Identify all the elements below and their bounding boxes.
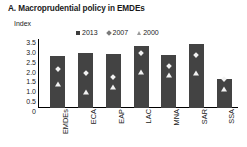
chart-legend: 201320072000: [76, 29, 159, 36]
x-label-ECA: ECA: [89, 109, 98, 124]
bar-SSA: [217, 79, 232, 108]
x-label-SSA: SSA: [227, 109, 236, 124]
chart-figure: A. Macroprudential policy in EMDEs Index…: [0, 0, 247, 147]
legend-item-2000: 2000: [137, 29, 159, 36]
x-label-SAR: SAR: [200, 109, 209, 124]
legend-label: 2013: [82, 29, 98, 36]
y-tick-label: 3.0: [26, 49, 36, 56]
x-axis-labels: EMDEsECAEAPLACMNASARSSA: [38, 109, 238, 147]
y-tick-label: 0: [32, 108, 36, 115]
triangle-marker-SAR: [193, 70, 199, 75]
bar-EAP: [106, 54, 121, 108]
y-tick-label: 1.5: [26, 78, 36, 85]
y-tick-label: 2.0: [26, 69, 36, 76]
x-label-MNA: MNA: [172, 109, 181, 125]
bar-ECA: [78, 53, 93, 108]
triangle-marker-ECA: [83, 90, 89, 95]
bar-group-EMDEs: [50, 39, 65, 108]
triangle-marker-EAP: [110, 85, 116, 90]
triangle-marker-MNA: [166, 73, 172, 78]
bar-group-MNA: [161, 39, 176, 108]
triangle-marker-LAC: [138, 69, 144, 74]
bar-group-ECA: [78, 39, 93, 108]
diamond-icon: [106, 30, 112, 36]
triangle-icon: [137, 31, 141, 35]
legend-item-2007: 2007: [107, 29, 129, 36]
square-icon: [76, 31, 80, 35]
plot-area: [38, 39, 238, 108]
bar-group-LAC: [134, 39, 149, 108]
y-axis-ticks: 3.53.02.52.01.51.00.50: [14, 36, 36, 111]
bar-group-EAP: [106, 39, 121, 108]
legend-label: 2000: [143, 29, 159, 36]
triangle-marker-SSA: [221, 87, 227, 92]
y-tick-label: 1.0: [26, 88, 36, 95]
x-label-EMDEs: EMDEs: [61, 109, 70, 134]
y-axis-line: [38, 39, 39, 108]
triangle-marker-EMDEs: [55, 82, 61, 87]
legend-label: 2007: [113, 29, 129, 36]
legend-item-2013: 2013: [76, 29, 98, 36]
y-tick-label: 0.5: [26, 98, 36, 105]
y-tick-label: 2.5: [26, 59, 36, 66]
y-tick-label: 3.5: [26, 39, 36, 46]
x-label-EAP: EAP: [117, 109, 126, 124]
bar-group-SAR: [189, 39, 204, 108]
y-axis-label: Index: [14, 20, 31, 27]
x-label-LAC: LAC: [144, 109, 153, 123]
bar-group-SSA: [217, 39, 232, 108]
page-title: A. Macroprudential policy in EMDEs: [8, 4, 145, 13]
